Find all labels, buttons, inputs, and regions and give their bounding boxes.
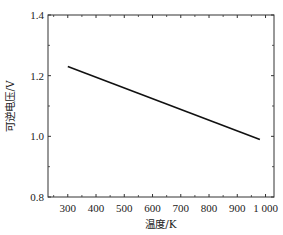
x-tick-label: 400 <box>88 202 105 214</box>
y-tick-label: 1.4 <box>30 9 44 21</box>
chart: 3004005006007008009001 000 0.81.01.21.4 … <box>0 0 283 235</box>
y-axis-ticks: 0.81.01.21.4 <box>30 9 274 203</box>
x-tick-label: 800 <box>201 202 218 214</box>
y-tick-label: 0.8 <box>30 191 44 203</box>
x-tick-label: 1 000 <box>253 202 278 214</box>
series-line <box>68 67 260 140</box>
x-tick-label: 600 <box>144 202 161 214</box>
x-tick-label: 900 <box>229 202 246 214</box>
x-tick-label: 500 <box>116 202 133 214</box>
y-axis-label: 可逆电压/V <box>4 80 16 132</box>
x-tick-label: 700 <box>173 202 190 214</box>
plot-frame <box>48 15 274 197</box>
series-group <box>68 67 260 140</box>
y-tick-label: 1.2 <box>30 70 44 82</box>
x-axis-label: 温度/K <box>145 218 177 230</box>
y-tick-label: 1.0 <box>30 130 44 142</box>
x-tick-label: 300 <box>60 202 77 214</box>
x-axis-ticks: 3004005006007008009001 000 <box>54 15 279 214</box>
